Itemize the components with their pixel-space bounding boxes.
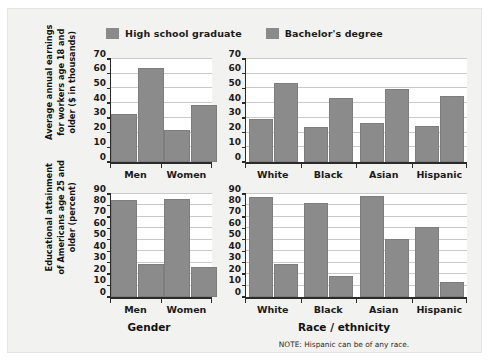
- y-axis-tick-label: 90: [228, 184, 241, 194]
- x-axis-tick-label: Men: [124, 304, 147, 315]
- bar-container: [111, 59, 212, 162]
- x-axis-tick-label: Women: [167, 169, 207, 180]
- y-axis-tick-label: 80: [228, 195, 241, 205]
- bar-group: [164, 194, 217, 297]
- legend-label: Bachelor's degree: [285, 28, 383, 39]
- bar[interactable]: [415, 126, 439, 162]
- x-axis-tick-label: Asian: [369, 304, 398, 315]
- y-axis-tick-label: 10: [93, 275, 106, 285]
- x-axis: MenWomen: [110, 163, 212, 180]
- x-axis-tick-label: Asian: [369, 169, 398, 180]
- y-axis-tick-label: 0: [235, 152, 241, 162]
- legend-entry-high-school-graduate: High school graduate: [106, 28, 242, 39]
- x-axis-categories: MenWomen: [110, 163, 212, 180]
- x-axis-tick-label: Women: [167, 304, 207, 315]
- bar[interactable]: [329, 276, 353, 297]
- y-axis-title-attainment: Educational attainment of Americans age …: [44, 157, 79, 277]
- x-axis-tick-label: Hispanic: [416, 169, 462, 180]
- bar-container: [111, 194, 212, 297]
- y-axis-tick-label: 20: [93, 122, 106, 132]
- x-axis: MenWomen: [110, 298, 212, 315]
- x-axis-category-cell: Asian: [356, 163, 412, 180]
- bar[interactable]: [164, 130, 190, 162]
- y-axis-tick-label: 70: [228, 49, 241, 59]
- x-axis-category-cell: Women: [161, 298, 212, 315]
- bar[interactable]: [249, 197, 273, 297]
- y-axis-tick-label: 60: [93, 218, 106, 228]
- x-axis-title-gender: Gender: [84, 321, 214, 333]
- plot-area-wrapper: 010203040506070: [110, 59, 212, 163]
- bar[interactable]: [415, 227, 439, 297]
- x-axis: WhiteBlackAsianHispanic: [245, 298, 467, 315]
- x-axis-tick-label: Black: [314, 169, 343, 180]
- bar[interactable]: [440, 282, 464, 297]
- x-axis: WhiteBlackAsianHispanic: [245, 163, 467, 180]
- bar[interactable]: [111, 114, 137, 162]
- chart-panel-attainment-by-race-ethnicity: 0102030405060708090WhiteBlackAsianHispan…: [219, 190, 469, 317]
- bar-group: [111, 194, 164, 297]
- y-axis-title-earnings: Average annual earnings for workers age …: [44, 22, 79, 142]
- plot-area: 010203040506070: [110, 59, 212, 163]
- bar[interactable]: [164, 199, 190, 297]
- plot-area: 0102030405060708090: [110, 194, 212, 298]
- y-axis-tick-label: 10: [228, 275, 241, 285]
- x-axis-title-race-ethnicity: Race / ethnicity: [219, 321, 469, 333]
- bar[interactable]: [360, 123, 384, 162]
- y-axis-tick-label: 50: [93, 78, 106, 88]
- x-axis-tick-label: Black: [314, 304, 343, 315]
- bar[interactable]: [111, 200, 137, 297]
- bar[interactable]: [274, 264, 298, 297]
- bar[interactable]: [249, 119, 273, 162]
- y-axis-tick-label: 50: [93, 229, 106, 239]
- x-axis-category-cell: Hispanic: [412, 163, 468, 180]
- y-axis-tick-label: 20: [228, 122, 241, 132]
- bar[interactable]: [304, 127, 328, 162]
- bar-group: [412, 59, 467, 162]
- bar[interactable]: [191, 105, 217, 162]
- chart-figure: High school graduate Bachelor's degree A…: [8, 9, 481, 352]
- bar[interactable]: [360, 196, 384, 297]
- x-axis-categories: WhiteBlackAsianHispanic: [245, 298, 467, 315]
- x-axis-category-cell: Women: [161, 163, 212, 180]
- bar-container: [246, 59, 467, 162]
- bar-group: [246, 59, 301, 162]
- plot-area-wrapper: 0102030405060708090: [245, 194, 467, 298]
- y-axis-tick-label: 60: [93, 63, 106, 73]
- chart-note: NOTE: Hispanic can be of any race.: [219, 340, 469, 349]
- chart-panel-attainment-by-gender: 0102030405060708090MenWomen: [84, 190, 214, 317]
- bar-group: [164, 59, 217, 162]
- bar-group: [412, 194, 467, 297]
- bar[interactable]: [329, 98, 353, 162]
- x-axis-category-cell: White: [245, 298, 301, 315]
- bar[interactable]: [304, 203, 328, 297]
- y-axis-tick-label: 50: [228, 229, 241, 239]
- bar[interactable]: [385, 239, 409, 297]
- chart-panel-earnings-by-race-ethnicity: 010203040506070WhiteBlackAsianHispanic: [219, 55, 469, 182]
- y-axis-tick-label: 30: [93, 107, 106, 117]
- y-axis-tick-label: 50: [228, 78, 241, 88]
- y-axis-tick-label: 60: [228, 218, 241, 228]
- bar[interactable]: [385, 89, 409, 162]
- x-axis-tick-label: White: [257, 169, 288, 180]
- y-axis-tick-label: 30: [228, 107, 241, 117]
- bar[interactable]: [138, 68, 164, 162]
- bar[interactable]: [138, 264, 164, 297]
- plot-area: 010203040506070: [245, 59, 467, 163]
- bar[interactable]: [274, 83, 298, 162]
- x-axis-categories: MenWomen: [110, 298, 212, 315]
- x-axis-tick-label: White: [257, 304, 288, 315]
- bar[interactable]: [191, 267, 217, 297]
- y-axis-tick-label: 20: [93, 264, 106, 274]
- bar[interactable]: [440, 96, 464, 162]
- bar-group: [301, 59, 356, 162]
- bar-container: [246, 194, 467, 297]
- chart-panel-earnings-by-gender: 010203040506070MenWomen: [84, 55, 214, 182]
- legend-swatch-icon: [106, 28, 119, 39]
- y-axis-tick-label: 90: [93, 184, 106, 194]
- bar-group: [357, 194, 412, 297]
- y-axis-tick-label: 0: [235, 287, 241, 297]
- y-axis-tick-label: 70: [228, 206, 241, 216]
- y-axis-tick-label: 20: [228, 264, 241, 274]
- x-axis-category-cell: Black: [301, 298, 357, 315]
- x-axis-category-cell: Hispanic: [412, 298, 468, 315]
